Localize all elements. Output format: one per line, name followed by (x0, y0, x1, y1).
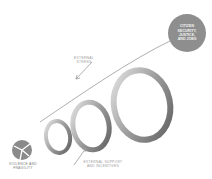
stress-arrow (76, 62, 92, 79)
loop-large (107, 65, 176, 145)
goal-line4: and Jobs (178, 37, 197, 41)
start-label: Violence and Fragility (4, 162, 42, 170)
loop-medium (69, 99, 113, 153)
support-label-line2: and Incentives (80, 164, 126, 168)
start-label-line2: Fragility (4, 166, 42, 170)
stress-label: External Stress (70, 56, 98, 64)
support-label: External Support and Incentives (80, 160, 126, 168)
loop-small (43, 119, 72, 155)
fractured-globe-icon (12, 140, 32, 160)
goal-circle: Citizen Security, Justice, and Jobs (168, 14, 206, 52)
goal-line1: Citizen (178, 24, 197, 28)
stress-label-line2: Stress (70, 60, 98, 64)
